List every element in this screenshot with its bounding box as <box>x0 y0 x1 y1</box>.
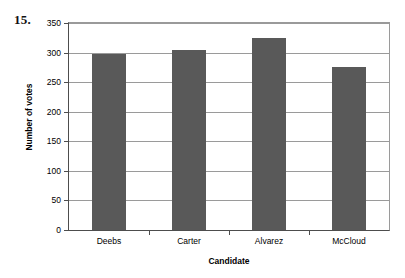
y-axis-tick <box>64 112 69 113</box>
y-axis-tick-label: 300 <box>47 48 61 58</box>
x-axis-tick-label: McCloud <box>332 236 366 246</box>
y-axis-tick-label: 200 <box>47 107 61 117</box>
y-axis-tick-label: 50 <box>52 195 61 205</box>
gridline <box>69 23 389 24</box>
y-axis-tick <box>64 23 69 24</box>
bar-mccloud <box>332 67 366 230</box>
x-axis-tick-label: Carter <box>177 236 201 246</box>
y-axis-title: Number of votes <box>24 52 34 182</box>
y-axis-tick-label: 150 <box>47 136 61 146</box>
y-axis-tick <box>64 171 69 172</box>
x-axis-tick-label: Deebs <box>97 236 122 246</box>
plot-area: 050100150200250300350DeebsCarterAlvarezM… <box>68 22 390 231</box>
x-axis-tick <box>149 230 150 235</box>
bar-carter <box>172 50 206 230</box>
x-axis-title: Candidate <box>68 256 390 266</box>
bar-alvarez <box>252 38 286 230</box>
y-axis-tick-label: 100 <box>47 166 61 176</box>
bar-deebs <box>92 54 126 230</box>
x-axis-tick <box>229 230 230 235</box>
bar-chart-figure: 15. Number of votes 05010015020025030035… <box>0 0 405 278</box>
y-axis-tick <box>64 141 69 142</box>
x-axis-tick-label: Alvarez <box>255 236 283 246</box>
y-axis-tick-label: 350 <box>47 18 61 28</box>
y-axis-tick <box>64 82 69 83</box>
y-axis-tick <box>64 53 69 54</box>
y-axis-tick-label: 250 <box>47 77 61 87</box>
y-axis-tick <box>64 200 69 201</box>
y-axis-tick-label: 0 <box>56 225 61 235</box>
y-axis-tick <box>64 230 69 231</box>
x-axis-tick <box>309 230 310 235</box>
question-number: 15. <box>14 12 31 28</box>
